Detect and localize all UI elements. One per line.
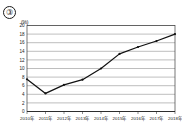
x-axis-tick-label: 2015年 bbox=[113, 115, 128, 122]
data-point bbox=[63, 84, 65, 86]
data-point bbox=[118, 53, 120, 55]
y-axis-tick-label: 0 bbox=[22, 109, 25, 114]
y-axis-tick-label: 12 bbox=[19, 58, 25, 63]
y-axis-tick-label: 4 bbox=[22, 92, 25, 97]
data-point bbox=[26, 78, 28, 80]
y-axis-tick-label: 8 bbox=[22, 75, 25, 80]
x-axis-tick-label: 2010年 bbox=[20, 115, 35, 122]
line-chart-plot: 02468101214161820 2010年2011年2012年2013年20… bbox=[0, 0, 182, 130]
x-axis-tick-label: 2012年 bbox=[57, 115, 72, 122]
y-axis-tick-label: 2 bbox=[22, 101, 25, 106]
chart-figure: ③ (%) 02468101214161820 2010年2011年2012年2… bbox=[0, 0, 182, 130]
data-point bbox=[100, 67, 102, 69]
y-axis-tick-label: 6 bbox=[22, 83, 25, 88]
y-axis-tick-label: 10 bbox=[19, 66, 25, 71]
data-series-line bbox=[27, 34, 175, 93]
x-axis-tick-label: 2013年 bbox=[76, 115, 91, 122]
data-point bbox=[155, 40, 157, 42]
data-point bbox=[44, 92, 46, 94]
y-axis-tick-labels: 02468101214161820 bbox=[19, 23, 25, 114]
data-point bbox=[174, 33, 176, 35]
y-axis-tick-label: 18 bbox=[19, 32, 25, 37]
y-axis-tick-label: 20 bbox=[19, 23, 25, 28]
y-axis-tick-label: 16 bbox=[19, 40, 25, 45]
y-axis-tick-label: 14 bbox=[19, 49, 25, 54]
data-point bbox=[137, 46, 139, 48]
data-point bbox=[81, 79, 83, 81]
x-axis-tick-label: 2018年 bbox=[168, 115, 182, 122]
x-axis-tick-label: 2016年 bbox=[131, 115, 146, 122]
x-axis-tick-label: 2011年 bbox=[39, 115, 53, 122]
x-axis-tick-labels: 2010年2011年2012年2013年2014年2015年2016年2017年… bbox=[20, 115, 182, 122]
x-axis-tick-label: 2014年 bbox=[94, 115, 109, 122]
x-axis-tick-label: 2017年 bbox=[150, 115, 165, 122]
